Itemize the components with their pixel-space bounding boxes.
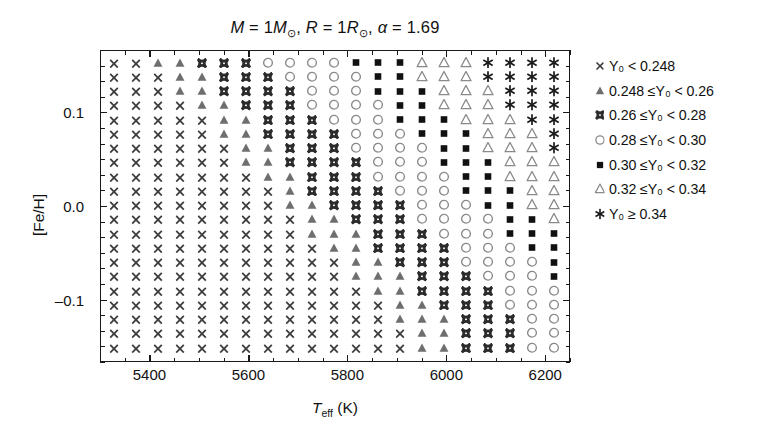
- legend-label: 0.26 ≤Y₀ < 0.28: [609, 107, 706, 123]
- data-point-filled-triangle: [439, 339, 450, 357]
- legend-item-filled-triangle[interactable]: 0.248 ≤Y₀ < 0.26: [590, 79, 768, 104]
- legend-label: Y₀ < 0.248: [609, 58, 675, 74]
- data-point-cross: [109, 339, 119, 357]
- legend-item-asterisk[interactable]: Y₀ ≥ 0.34: [590, 202, 768, 227]
- data-point-open-circle: [548, 339, 560, 357]
- legend-item-cross[interactable]: Y₀ < 0.248: [590, 54, 768, 79]
- data-point-cross: [285, 339, 295, 357]
- data-point-cross: [329, 339, 339, 357]
- data-point-cross: [153, 339, 163, 357]
- legend-label: Y₀ ≥ 0.34: [609, 206, 667, 222]
- data-point-cross: [197, 339, 207, 357]
- open-triangle-icon: [590, 180, 609, 199]
- bowtie-icon: [590, 106, 609, 125]
- filled-triangle-icon: [590, 81, 609, 100]
- legend-item-filled-square[interactable]: 0.30 ≤Y₀ < 0.32: [590, 152, 768, 177]
- data-point-cross: [131, 339, 141, 357]
- data-point-cross: [263, 339, 273, 357]
- legend-item-bowtie[interactable]: 0.26 ≤Y₀ < 0.28: [590, 103, 768, 128]
- legend-item-open-triangle[interactable]: 0.32 ≤Y₀ < 0.34: [590, 177, 768, 202]
- data-point-cross: [351, 339, 361, 357]
- data-point-bowtie: [461, 339, 472, 357]
- legend-label: 0.30 ≤Y₀ < 0.32: [609, 157, 706, 173]
- y-axis-label: [Fe/H]: [30, 155, 48, 275]
- data-point-cross: [307, 339, 317, 357]
- data-point-bowtie: [505, 339, 516, 357]
- figure-scatter-plot: M = 1M⊙, R = 1R⊙, α = 1.69 5400560058006…: [0, 0, 771, 442]
- data-point-bowtie: [483, 339, 494, 357]
- data-point-cross: [219, 339, 229, 357]
- legend-label: 0.28 ≤Y₀ < 0.30: [609, 132, 706, 148]
- legend-label: 0.248 ≤Y₀ < 0.26: [609, 83, 714, 99]
- x-axis-label: Teff (K): [100, 399, 570, 419]
- cross-icon: [590, 57, 609, 76]
- data-point-filled-triangle: [417, 339, 428, 357]
- data-point-cross: [373, 339, 383, 357]
- legend-item-open-circle[interactable]: 0.28 ≤Y₀ < 0.30: [590, 128, 768, 153]
- data-point-cross: [175, 339, 185, 357]
- asterisk-icon: [590, 204, 609, 223]
- legend-label: 0.32 ≤Y₀ < 0.34: [609, 181, 706, 197]
- legend: Y₀ < 0.2480.248 ≤Y₀ < 0.260.26 ≤Y₀ < 0.2…: [590, 54, 768, 226]
- filled-square-icon: [590, 155, 609, 174]
- open-circle-icon: [590, 131, 609, 150]
- data-point-cross: [241, 339, 251, 357]
- data-point-open-circle: [526, 339, 538, 357]
- data-point-cross: [395, 339, 405, 357]
